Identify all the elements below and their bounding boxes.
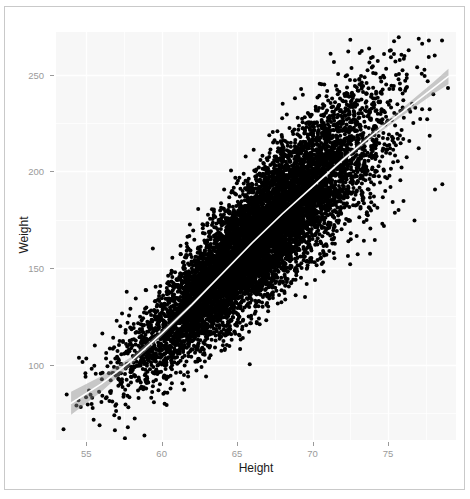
- x-tick-label: 60: [156, 448, 167, 459]
- x-tick-mark: [237, 442, 238, 446]
- x-tick-label: 55: [81, 448, 92, 459]
- plot-root: 100150200250 5560657075 Height Weight: [0, 0, 470, 499]
- y-tick-label: 200: [0, 166, 44, 177]
- x-tick-label: 75: [383, 448, 394, 459]
- x-tick-mark: [313, 442, 314, 446]
- y-tick-label: 250: [0, 69, 44, 80]
- x-tick-mark: [162, 442, 163, 446]
- plot-panel: [56, 32, 456, 440]
- x-tick-label: 65: [232, 448, 243, 459]
- y-tick-mark: [50, 171, 54, 172]
- x-tick-label: 70: [307, 448, 318, 459]
- x-tick-mark: [86, 442, 87, 446]
- y-tick-mark: [50, 365, 54, 366]
- y-axis-title: Weight: [17, 195, 31, 275]
- y-tick-label: 100: [0, 359, 44, 370]
- x-axis-title: Height: [56, 461, 456, 475]
- y-tick-mark: [50, 75, 54, 76]
- y-tick-mark: [50, 268, 54, 269]
- x-tick-mark: [388, 442, 389, 446]
- scatter-canvas: [56, 32, 456, 440]
